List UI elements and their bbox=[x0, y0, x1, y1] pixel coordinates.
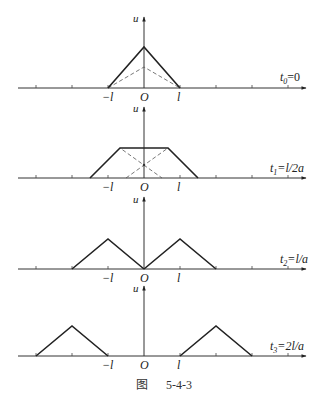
time-label-t1: t1=l/2a bbox=[270, 161, 304, 177]
right-triangle-wave bbox=[180, 326, 252, 356]
x-label-origin: O bbox=[140, 90, 149, 104]
figure-caption: 图 5-4-3 bbox=[136, 378, 192, 392]
caption-prefix: 图 bbox=[136, 378, 148, 392]
u-axis-label: u bbox=[133, 12, 139, 24]
caption-number: 5-4-3 bbox=[166, 378, 192, 392]
x-label-l: l bbox=[177, 180, 181, 194]
panel-t2: u −l O l t2=l/a bbox=[18, 193, 308, 285]
right-traveling-dashed bbox=[126, 148, 198, 178]
x-label-l: l bbox=[177, 358, 181, 372]
panel-t3: u −l O l t3=2l/a bbox=[18, 282, 306, 372]
time-label-t3: t3=2l/a bbox=[270, 339, 304, 355]
x-label-l: l bbox=[177, 90, 181, 104]
u-axis-label: u bbox=[133, 282, 139, 294]
x-label-neg-l: −l bbox=[102, 271, 114, 285]
left-triangle-wave bbox=[72, 239, 144, 269]
u-axis-label: u bbox=[133, 102, 139, 114]
x-label-origin: O bbox=[140, 271, 149, 285]
panel-t0: u −l O l t0=0 bbox=[18, 12, 306, 104]
time-label-t2: t2=l/a bbox=[280, 252, 308, 268]
x-label-origin: O bbox=[140, 180, 149, 194]
wave-propagation-figure: u −l O l t0=0 u −l O l t1=l/2a bbox=[0, 0, 322, 404]
crossing-point bbox=[143, 164, 145, 166]
panel-t1: u −l O l t1=l/2a bbox=[18, 102, 306, 194]
x-label-l: l bbox=[177, 271, 181, 285]
u-axis-label: u bbox=[133, 193, 139, 205]
x-label-neg-l: −l bbox=[102, 358, 114, 372]
x-label-origin: O bbox=[140, 358, 149, 372]
x-label-neg-l: −l bbox=[102, 90, 114, 104]
time-label-t0: t0=0 bbox=[280, 70, 300, 86]
left-triangle-wave bbox=[36, 326, 108, 356]
right-triangle-wave bbox=[144, 239, 216, 269]
x-label-neg-l: −l bbox=[102, 180, 114, 194]
left-traveling-dashed bbox=[90, 148, 162, 178]
